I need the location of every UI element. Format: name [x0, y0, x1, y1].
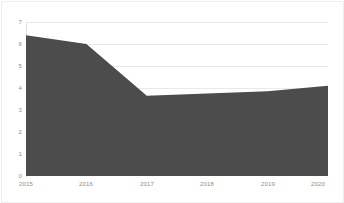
- area-series-polygon: [26, 35, 328, 176]
- x-axis-tick-label: 2017: [127, 181, 167, 187]
- y-axis-tick-label: 5: [0, 63, 22, 69]
- y-axis-tick-label: 1: [0, 151, 22, 157]
- y-axis-tick-label: 4: [0, 85, 22, 91]
- x-axis-tick-label: 2019: [248, 181, 288, 187]
- plot-area: [26, 22, 328, 176]
- y-axis-tick-label: 7: [0, 19, 22, 25]
- x-axis-tick-label: 2015: [6, 181, 46, 187]
- x-axis-tick-label: 2020: [298, 181, 338, 187]
- y-axis-tick-label: 6: [0, 41, 22, 47]
- x-axis-tick-label: 2018: [187, 181, 227, 187]
- y-axis-tick-label: 3: [0, 107, 22, 113]
- area-series: [26, 22, 328, 176]
- y-axis-tick-label: 0: [0, 173, 22, 179]
- area-chart-figure: 7 6 5 4 3 2 1 0 2015 2016 2017 2018 2019…: [0, 0, 344, 203]
- y-axis-tick-label: 2: [0, 129, 22, 135]
- x-axis-tick-label: 2016: [66, 181, 106, 187]
